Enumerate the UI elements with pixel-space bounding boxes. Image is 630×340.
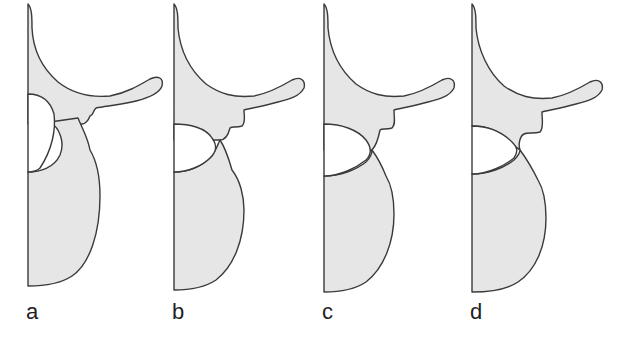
upper-vertebra-outline-d	[472, 4, 602, 150]
panel-c: c	[322, 0, 472, 340]
vertebra-stage-figure: a b c d	[0, 0, 630, 340]
panel-d: d	[470, 0, 620, 340]
panel-label-a: a	[26, 301, 38, 323]
panel-label-d: d	[470, 301, 482, 323]
panel-b: b	[172, 0, 322, 340]
vertebra-illustration-c	[322, 0, 472, 300]
panel-label-b: b	[172, 301, 184, 323]
joint-space-a	[28, 94, 54, 172]
upper-vertebra-outline-b	[174, 4, 304, 140]
vertebra-illustration-a	[26, 0, 176, 300]
panel-a: a	[26, 0, 176, 340]
panel-label-c: c	[322, 301, 333, 323]
vertebra-illustration-d	[470, 0, 620, 300]
vertebra-illustration-b	[172, 0, 322, 300]
